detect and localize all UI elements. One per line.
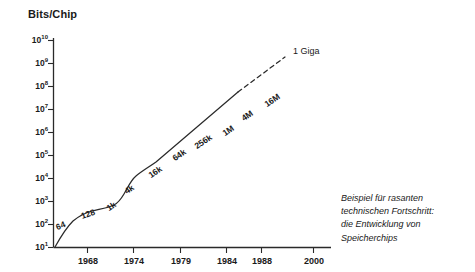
y-tick-label: 103: [35, 196, 48, 206]
series-line-forecast: [238, 57, 285, 92]
y-tick-label: 107: [35, 104, 48, 114]
caption-line-3: die Entwicklung von: [341, 218, 471, 231]
y-tick-label: 104: [35, 173, 48, 183]
forecast-label-1-giga: 1 Giga: [293, 46, 320, 56]
caption-line-4: Speicherchips: [341, 232, 471, 245]
x-tick-label-1988: 1988: [252, 256, 272, 266]
caption-line-2: technischen Fortschritt:: [341, 205, 471, 218]
y-tick-label: 109: [35, 58, 48, 68]
chart-container: Bits/Chip: [0, 0, 475, 272]
y-tick-label: 101: [35, 242, 48, 252]
y-tick-label: 102: [35, 219, 48, 229]
figure-caption: Beispiel für rasanten technischen Fortsc…: [341, 192, 471, 245]
x-tick-label-2000: 2000: [304, 256, 324, 266]
y-tick-marks: [48, 41, 54, 248]
caption-line-1: Beispiel für rasanten: [341, 192, 471, 205]
y-tick-label: 108: [35, 81, 48, 91]
y-tick-label: 1010: [32, 35, 48, 45]
y-tick-label: 105: [35, 150, 48, 160]
y-tick-label: 106: [35, 127, 48, 137]
x-tick-label-1974: 1974: [124, 256, 144, 266]
series-line-measured: [55, 92, 238, 247]
x-tick-label-1979: 1979: [171, 256, 191, 266]
x-tick-label-1968: 1968: [78, 256, 98, 266]
x-tick-label-1984: 1984: [217, 256, 237, 266]
x-tick-marks: [88, 248, 314, 254]
